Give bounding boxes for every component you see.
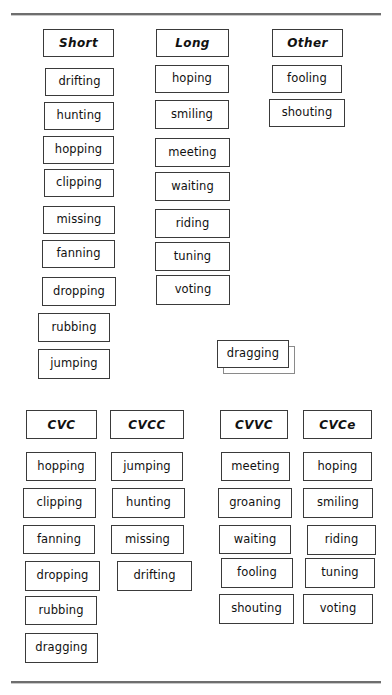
word-card[interactable]: riding [155, 209, 230, 238]
word-card[interactable]: jumping [111, 452, 183, 481]
word-card[interactable]: meeting [221, 452, 290, 481]
word-card[interactable]: voting [156, 275, 230, 305]
word-card[interactable]: jumping [38, 349, 110, 379]
word-card[interactable]: hunting [112, 488, 185, 518]
word-card[interactable]: clipping [44, 169, 114, 197]
column-header-cvvc: CVVC [220, 410, 288, 439]
word-card[interactable]: missing [111, 525, 184, 554]
word-card[interactable]: missing [43, 206, 115, 234]
word-card[interactable]: shouting [219, 594, 294, 624]
column-header-long: Long [156, 29, 229, 57]
word-card[interactable]: rubbing [38, 313, 110, 342]
word-card[interactable]: hoping [303, 452, 372, 481]
column-header-other: Other [272, 29, 343, 57]
word-card[interactable]: dropping [25, 561, 100, 591]
dragging-word-card[interactable]: dragging [217, 340, 289, 368]
column-header-cvc: CVC [26, 410, 97, 439]
word-card[interactable]: clipping [23, 488, 96, 518]
word-card[interactable]: hunting [44, 102, 114, 130]
word-card[interactable]: drifting [45, 68, 114, 96]
word-card[interactable]: tuning [155, 242, 230, 271]
word-card[interactable]: dragging [25, 633, 98, 663]
word-card[interactable]: rubbing [25, 596, 97, 625]
word-card[interactable]: drifting [117, 561, 192, 591]
column-header-cvcc: CVCC [110, 410, 184, 439]
word-card[interactable]: fooling [221, 558, 293, 588]
word-card[interactable]: tuning [305, 558, 375, 588]
word-card[interactable]: fanning [23, 525, 95, 554]
column-header-short: Short [43, 29, 114, 57]
bottom-divider [11, 681, 381, 684]
word-card[interactable]: hopping [26, 452, 96, 481]
column-header-cvce: CVCe [303, 410, 372, 439]
worksheet-page: Shortdriftinghuntinghoppingclippingmissi… [0, 0, 392, 695]
word-card[interactable]: waiting [219, 525, 291, 554]
word-card[interactable]: meeting [155, 138, 230, 167]
word-card[interactable]: waiting [155, 172, 230, 201]
word-card[interactable]: fooling [272, 65, 342, 93]
word-card[interactable]: fanning [42, 240, 115, 268]
word-card[interactable]: voting [303, 594, 373, 624]
word-card[interactable]: smiling [155, 100, 229, 129]
top-divider [11, 13, 381, 16]
word-card[interactable]: dropping [42, 277, 116, 306]
word-card[interactable]: shouting [269, 99, 345, 127]
word-card[interactable]: riding [307, 525, 376, 555]
word-card[interactable]: smiling [303, 488, 373, 518]
word-card[interactable]: hopping [43, 136, 114, 164]
word-card[interactable]: hoping [155, 65, 229, 93]
word-card[interactable]: groaning [218, 488, 292, 518]
